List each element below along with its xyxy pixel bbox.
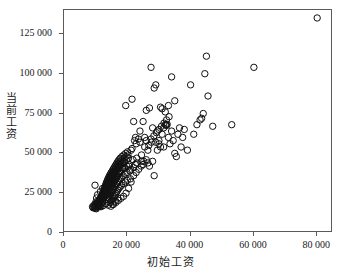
data-point xyxy=(130,118,136,124)
data-point xyxy=(229,121,235,127)
x-axis-title: 初始工资 xyxy=(0,257,342,269)
x-tick-mark xyxy=(63,232,64,236)
data-point xyxy=(140,118,146,124)
data-point xyxy=(168,128,174,134)
data-point xyxy=(172,98,178,104)
y-tick-label: 125 000 xyxy=(0,28,52,38)
data-point xyxy=(314,15,320,21)
x-tick-mark xyxy=(126,232,127,236)
x-tick-label: 60 000 xyxy=(223,240,283,250)
data-point xyxy=(123,102,129,108)
y-tick-label: 100 000 xyxy=(0,68,52,78)
data-point xyxy=(148,64,154,70)
data-point xyxy=(92,182,98,188)
x-tick-label: 0 xyxy=(33,240,93,250)
y-tick-mark xyxy=(59,33,63,34)
y-tick-label: 0 xyxy=(0,227,52,237)
data-point-layer xyxy=(64,10,331,231)
data-point xyxy=(129,96,135,102)
plot-area xyxy=(63,9,332,232)
x-tick-mark xyxy=(253,232,254,236)
data-point xyxy=(197,117,203,123)
y-tick-mark xyxy=(59,73,63,74)
data-point xyxy=(202,71,208,77)
data-point xyxy=(137,128,143,134)
data-point xyxy=(179,134,185,140)
data-point xyxy=(168,74,174,80)
data-point xyxy=(134,155,140,161)
data-point xyxy=(187,82,193,88)
y-tick-label: 75 000 xyxy=(0,108,52,118)
x-tick-mark xyxy=(190,232,191,236)
data-point xyxy=(184,147,190,153)
data-point xyxy=(210,123,216,129)
y-tick-mark xyxy=(59,113,63,114)
cropped-header-text xyxy=(0,0,342,7)
data-point xyxy=(191,131,197,137)
data-point xyxy=(251,64,257,70)
x-tick-label: 40 000 xyxy=(160,240,220,250)
y-tick-mark xyxy=(59,192,63,193)
scatter-plot-figure: 当前工资 025 00050 00075 000100 000125 000 0… xyxy=(0,0,342,276)
data-point xyxy=(165,134,171,140)
data-point xyxy=(178,144,184,150)
data-point xyxy=(151,172,157,178)
data-point xyxy=(175,131,181,137)
data-point xyxy=(205,93,211,99)
data-point xyxy=(165,102,171,108)
data-point xyxy=(203,53,209,59)
y-tick-label: 25 000 xyxy=(0,187,52,197)
data-point xyxy=(138,152,144,158)
x-tick-label: 20 000 xyxy=(96,240,156,250)
x-tick-mark xyxy=(316,232,317,236)
y-tick-label: 50 000 xyxy=(0,147,52,157)
y-tick-mark xyxy=(59,152,63,153)
x-tick-label: 80 000 xyxy=(286,240,342,250)
